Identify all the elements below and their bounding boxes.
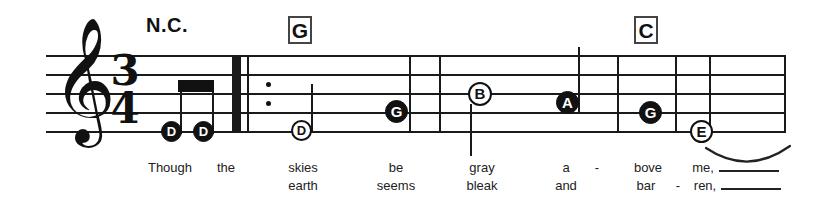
chord-symbol-c[interactable]: C <box>634 16 658 44</box>
notehead-d-3[interactable]: D <box>291 120 312 141</box>
lyric-extension-line2 <box>721 188 781 190</box>
barline-2 <box>439 55 441 133</box>
lyric-line1-word: Though <box>148 160 192 175</box>
notehead-label: D <box>167 124 176 139</box>
lyric-line1-word: bove <box>634 160 662 175</box>
lyric-line2-word: bleak <box>466 178 497 193</box>
lyric-line2-word: bar <box>637 178 656 193</box>
barline-5 <box>709 55 711 133</box>
lyric-line2-word: ren, <box>694 178 716 193</box>
note-stem-d3 <box>311 84 313 132</box>
treble-clef-icon: 𝄞 <box>52 26 116 134</box>
notehead-label: D <box>297 123 306 138</box>
time-signature-denominator: 4 <box>108 90 142 128</box>
notehead-label: E <box>696 123 706 140</box>
notehead-label: G <box>645 104 657 121</box>
notehead-b[interactable]: B <box>468 82 492 106</box>
lyric-line1-word: skies <box>288 160 318 175</box>
notehead-label: B <box>475 85 486 102</box>
barline-4 <box>675 55 677 133</box>
repeat-barline-thin <box>247 55 249 133</box>
lyric-line1-word: the <box>217 160 235 175</box>
barline-1 <box>409 55 411 133</box>
lyric-line2-word: seems <box>377 178 415 193</box>
note-stem-b <box>470 104 472 156</box>
lyric-line2-word: earth <box>288 178 318 193</box>
repeat-dot-upper <box>266 82 271 87</box>
time-signature: 3 4 <box>108 52 142 128</box>
notehead-g-2[interactable]: G <box>639 101 662 124</box>
lyric-line1-word: gray <box>469 160 494 175</box>
sheet-music-canvas: 𝄞 3 4 D D D G B A G E <box>0 0 822 203</box>
notehead-g-1[interactable]: G <box>385 100 408 123</box>
notehead-d-2[interactable]: D <box>193 121 214 142</box>
notehead-a[interactable]: A <box>556 91 579 114</box>
eighth-note-beam <box>178 80 214 92</box>
notehead-d-1[interactable]: D <box>161 121 182 142</box>
lyric-line2-hyphen: - <box>676 178 680 193</box>
repeat-barline-thick <box>232 55 241 133</box>
notehead-label: D <box>199 124 208 139</box>
chord-symbol-g[interactable]: G <box>288 16 312 44</box>
lyric-extension-line1 <box>719 170 779 172</box>
notehead-e[interactable]: E <box>690 120 713 143</box>
lyric-line1-word: be <box>389 160 403 175</box>
notehead-label: A <box>562 94 573 111</box>
lyric-line2-word: and <box>555 178 577 193</box>
lyric-line1-word: a <box>562 160 569 175</box>
chord-symbol-nc[interactable]: N.C. <box>146 14 188 37</box>
lyric-line1-word: me, <box>692 160 714 175</box>
lyric-line1-hyphen: - <box>595 160 599 175</box>
barline-end <box>784 55 786 133</box>
barline-3 <box>617 55 619 133</box>
notehead-label: G <box>391 103 403 120</box>
repeat-dot-lower <box>266 101 271 106</box>
